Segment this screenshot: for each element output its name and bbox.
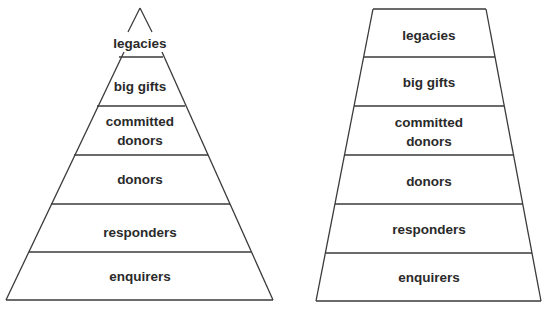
pyramid-right-edge xyxy=(162,52,273,300)
level-label-enquirers: enquirers xyxy=(398,270,460,285)
level-label-donors-line2: donors xyxy=(406,134,452,149)
pyramid-apex-left-edge xyxy=(128,8,140,32)
level-label-legacies: legacies xyxy=(402,28,455,43)
level-label-responders: responders xyxy=(392,222,466,237)
level-label-legacies: legacies xyxy=(113,36,166,51)
level-label-responders: responders xyxy=(103,225,177,240)
level-label-big-gifts: big gifts xyxy=(114,79,167,94)
level-label-big-gifts: big gifts xyxy=(403,75,456,90)
level-label-committed: committed xyxy=(395,115,463,130)
fundraising-diagrams: legacies big gifts committed donors dono… xyxy=(0,0,545,313)
pyramid-apex-right-edge xyxy=(140,8,152,32)
level-label-enquirers: enquirers xyxy=(109,269,171,284)
level-label-donors-line2: donors xyxy=(117,133,163,148)
trapezoid-diagram: legacies big gifts committed donors dono… xyxy=(316,9,541,301)
level-label-donors: donors xyxy=(117,172,163,187)
pyramid-left-edge xyxy=(6,52,124,300)
level-label-donors: donors xyxy=(406,174,452,189)
pyramid-diagram: legacies big gifts committed donors dono… xyxy=(6,8,273,300)
level-label-committed: committed xyxy=(106,114,174,129)
